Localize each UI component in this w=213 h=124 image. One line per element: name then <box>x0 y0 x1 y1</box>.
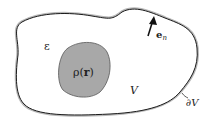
charge-density-label: ρ(r) <box>73 66 94 79</box>
epsilon-label: ε <box>44 40 50 53</box>
boundary-label: ∂V <box>186 97 200 108</box>
volume-label: V <box>130 84 139 97</box>
diagram-canvas: ε ρ(r) V ∂V en <box>0 0 213 124</box>
